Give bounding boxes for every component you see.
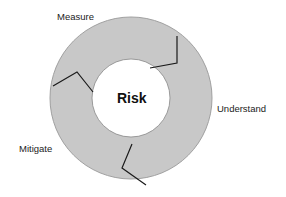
stage-label-measure: Measure	[57, 11, 94, 22]
stage-label-understand: Understand	[217, 103, 266, 114]
stage-label-mitigate: Mitigate	[19, 143, 52, 154]
center-label-risk: Risk	[117, 90, 147, 106]
